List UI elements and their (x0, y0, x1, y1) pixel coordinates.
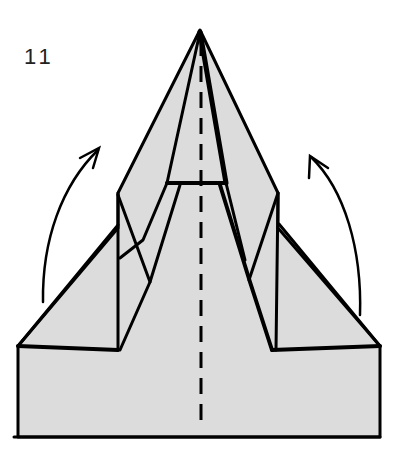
folding-diagram (0, 0, 400, 468)
paper-outline (18, 30, 380, 437)
paper-model (14, 30, 380, 437)
right-vertical-edge (276, 193, 278, 350)
